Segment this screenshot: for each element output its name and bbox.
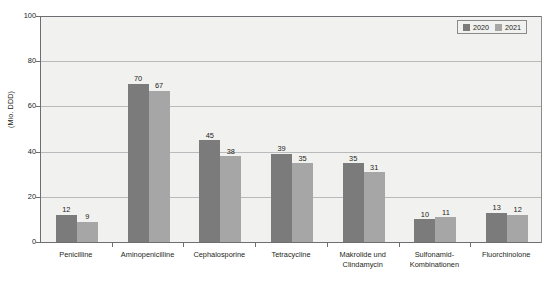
y-axis-tick-label: 60 — [14, 102, 36, 109]
bar-2021-aminopenicilline[interactable]: 67 — [149, 91, 170, 242]
bar-2020-makrolideundclindamycin[interactable]: 35 — [343, 163, 364, 242]
bar-2021-makrolideundclindamycin[interactable]: 31 — [364, 172, 385, 242]
x-axis-tick-mark — [183, 243, 184, 247]
bar-2020-sulfonamidkombinationen[interactable]: 10 — [414, 219, 435, 242]
x-axis-category-label: Sulfonamid-Kombinationen — [399, 250, 471, 269]
bar-group: 129 — [56, 16, 98, 242]
y-axis-tick-label: 80 — [14, 57, 36, 64]
plot-area: 129706745383935353110111312 — [40, 16, 542, 243]
chart-legend: 20202021 — [457, 20, 527, 34]
bar-group: 1011 — [414, 16, 456, 242]
y-axis-tick-mark — [36, 242, 40, 243]
bar-2021-cephalosporine[interactable]: 38 — [220, 156, 241, 242]
y-axis-tick-mark — [36, 61, 40, 62]
y-axis-tick-label: 0 — [14, 238, 36, 245]
x-axis-category-label: Cephalosporine — [183, 250, 255, 260]
legend-label: 2020 — [473, 24, 489, 31]
bar-group: 3531 — [343, 16, 385, 242]
bar-value-label: 45 — [197, 132, 223, 139]
bar-2020-aminopenicilline[interactable]: 70 — [128, 84, 149, 242]
bar-group: 7067 — [128, 16, 170, 242]
bar-value-label: 9 — [74, 213, 100, 220]
y-axis-tick-mark — [36, 152, 40, 153]
bar-chart: (Mio. DDD) 100806040200 1297067453839353… — [0, 0, 552, 285]
bar-value-label: 35 — [290, 155, 316, 162]
bar-2021-sulfonamidkombinationen[interactable]: 11 — [435, 217, 456, 242]
x-axis-category-label-line: Tetracycline — [255, 250, 327, 260]
bar-value-label: 12 — [505, 206, 531, 213]
legend-item-2020[interactable]: 2020 — [463, 24, 489, 31]
y-axis-tick-label: 40 — [14, 148, 36, 155]
plot-border-right — [541, 16, 542, 243]
bar-group: 3935 — [271, 16, 313, 242]
x-axis-tick-mark — [112, 243, 113, 247]
x-axis-category-label-line: Fluorchinolone — [470, 250, 542, 260]
bar-value-label: 31 — [361, 164, 387, 171]
y-axis-tick-label: 20 — [14, 193, 36, 200]
x-axis-category-label-line: Clindamycin — [327, 260, 399, 270]
y-axis-tick-mark — [36, 197, 40, 198]
x-axis-category-label-line: Penicilline — [40, 250, 112, 260]
x-axis-category-label: Aminopenicilline — [112, 250, 184, 260]
x-axis-category-label: Fluorchinolone — [470, 250, 542, 260]
legend-swatch-icon — [463, 24, 470, 31]
x-axis-category-label: Penicilline — [40, 250, 112, 260]
legend-swatch-icon — [495, 24, 502, 31]
bar-group: 4538 — [199, 16, 241, 242]
y-axis-tick-mark — [36, 16, 40, 17]
bar-2021-penicilline[interactable]: 9 — [77, 222, 98, 242]
x-axis-category-label-line: Kombinationen — [399, 260, 471, 270]
bar-value-label: 39 — [269, 145, 295, 152]
x-axis-tick-mark — [255, 243, 256, 247]
legend-label: 2021 — [505, 24, 521, 31]
x-axis-tick-mark — [399, 243, 400, 247]
bar-value-label: 35 — [340, 155, 366, 162]
x-axis-category-label-line: Makrolide und — [327, 250, 399, 260]
bar-2020-fluorchinolone[interactable]: 13 — [486, 213, 507, 242]
x-axis-category-label-line: Aminopenicilline — [112, 250, 184, 260]
y-axis-tick-label: 100 — [14, 12, 36, 19]
bar-value-label: 38 — [218, 148, 244, 155]
x-axis-category-label: Makrolide undClindamycin — [327, 250, 399, 269]
plot-border-top — [40, 16, 542, 17]
bar-2020-cephalosporine[interactable]: 45 — [199, 140, 220, 242]
bar-2020-tetracycline[interactable]: 39 — [271, 154, 292, 242]
bar-value-label: 11 — [433, 209, 459, 216]
x-axis-category-label-line: Cephalosporine — [183, 250, 255, 260]
bar-value-label: 67 — [146, 82, 172, 89]
y-axis-tick-mark — [36, 106, 40, 107]
x-axis-tick-mark — [470, 243, 471, 247]
x-axis-category-label-line: Sulfonamid- — [399, 250, 471, 260]
legend-item-2021[interactable]: 2021 — [495, 24, 521, 31]
x-axis-tick-mark — [327, 243, 328, 247]
bar-2021-tetracycline[interactable]: 35 — [292, 163, 313, 242]
y-axis-tick-labels: 100806040200 — [12, 0, 36, 285]
bar-group: 1312 — [486, 16, 528, 242]
x-axis-category-label: Tetracycline — [255, 250, 327, 260]
bar-2021-fluorchinolone[interactable]: 12 — [507, 215, 528, 242]
